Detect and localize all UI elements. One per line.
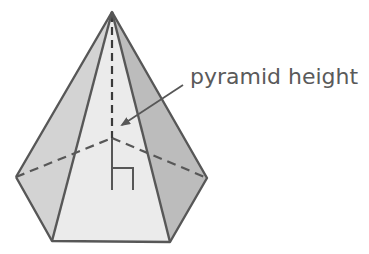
pyramid-height-label: pyramid height: [190, 64, 358, 89]
pyramid-diagram: [0, 0, 369, 254]
